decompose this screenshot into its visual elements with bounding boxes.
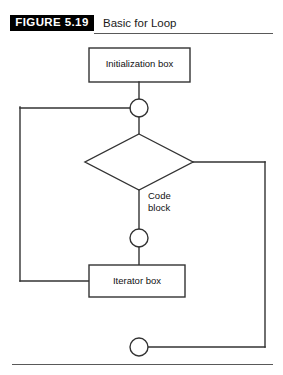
- node-code-block-label: Code block: [148, 190, 192, 213]
- node-junction-top: [130, 99, 148, 117]
- code-block-label-line2: block: [148, 202, 192, 214]
- node-iterator-label: Iterator box: [89, 275, 185, 286]
- footer-divider: [12, 364, 273, 365]
- flowchart-diagram: [0, 0, 283, 375]
- code-block-label-line1: Code: [148, 190, 192, 202]
- node-initialization-label: Initialization box: [89, 58, 190, 69]
- node-junction-bottom: [130, 338, 148, 356]
- node-condition-diamond: [85, 134, 193, 190]
- figure-container: FIGURE 5.19 Basic for Loop: [0, 0, 283, 375]
- node-junction-middle: [130, 229, 148, 247]
